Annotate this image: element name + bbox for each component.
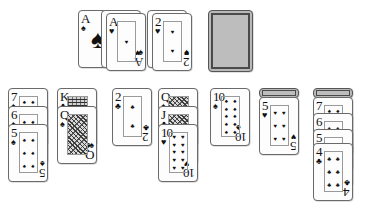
card-index-top-left: 5♥ bbox=[262, 99, 268, 120]
card-index-bottom-right: 2♣ bbox=[143, 123, 149, 144]
tableau-column-1-card-3[interactable]: 5♠5♠♠♠♠♠♠♠ bbox=[8, 124, 48, 182]
card-pip: ♠ bbox=[225, 129, 228, 135]
card-pip: ♥ bbox=[172, 142, 176, 148]
card-pip: ♥ bbox=[273, 123, 277, 129]
card-index-top-left: 2♣ bbox=[115, 90, 121, 111]
card-back-pattern bbox=[211, 13, 250, 69]
card-pip-field: ♥ bbox=[117, 21, 136, 62]
card-pip: ♥ bbox=[282, 123, 286, 129]
card-index-bottom-right: 5♥ bbox=[291, 132, 297, 153]
card-pip: ♣ bbox=[327, 169, 331, 175]
card-pip: ♣ bbox=[336, 182, 340, 188]
card-pip: ♥ bbox=[181, 134, 185, 140]
card-pip: ♥ bbox=[181, 165, 185, 171]
tableau-column-5-card-1[interactable]: 10♠10♠♠♠♠♠♠♠♠♠♠♠ bbox=[210, 88, 250, 146]
tableau-column-4-card-3[interactable]: 10♥10♥♥♥♥♥♥♥♥♥♥♥ bbox=[158, 124, 198, 182]
card-pip: ♠ bbox=[225, 113, 228, 119]
card-pip: ♣ bbox=[336, 156, 340, 162]
card-index-bottom-right: 5♠ bbox=[40, 159, 46, 180]
stock-pile[interactable] bbox=[208, 10, 253, 72]
card-pip-field: ♥♥♥♥♥♥♥♥♥♥ bbox=[169, 132, 188, 173]
card-pip: ♠ bbox=[225, 98, 228, 104]
card-pip-field: ♥♥♥♥♥♥ bbox=[270, 105, 289, 146]
card-pip: ♥ bbox=[125, 39, 129, 45]
card-pip: ♥ bbox=[181, 157, 185, 163]
card-pip: ♥ bbox=[282, 110, 286, 116]
tableau-column-7-card-5[interactable]: 4♣4♣♣♣♣♣♣♣ bbox=[313, 143, 353, 201]
card-pip: ♠ bbox=[233, 106, 236, 112]
court-card-art bbox=[67, 114, 88, 155]
foundation-pile-2-top-card[interactable]: A♥A♥♥♠ bbox=[106, 13, 146, 71]
card-pip-field: ♣♣♣♣♣♣ bbox=[324, 151, 343, 192]
card-pip: ♣ bbox=[131, 104, 135, 110]
card-pip: ♠ bbox=[233, 121, 236, 127]
card-overlap-suit-pip: ♠ bbox=[138, 47, 143, 57]
tableau-column-2-card-2[interactable]: Q♠Q♠♠ bbox=[57, 106, 97, 164]
card-pip-field: ♣♣ bbox=[123, 96, 142, 137]
card-pip: ♠ bbox=[31, 137, 34, 143]
card-index-top-left: 4♣ bbox=[316, 145, 322, 166]
card-suit-pip: ♠ bbox=[89, 140, 94, 150]
card-pip: ♠ bbox=[233, 98, 236, 104]
card-pip: ♥ bbox=[282, 136, 286, 142]
card-pip: ♣ bbox=[336, 169, 340, 175]
card-index-top-left: 5♠ bbox=[11, 126, 17, 147]
card-pip: ♠ bbox=[225, 106, 228, 112]
card-pip: ♥ bbox=[181, 142, 185, 148]
card-pip: ♠ bbox=[31, 150, 34, 156]
card-pip: ♥ bbox=[171, 48, 175, 54]
card-back-pattern bbox=[316, 90, 350, 96]
card-index-top-left: 2♥ bbox=[155, 15, 161, 36]
card-pip: ♥ bbox=[172, 134, 176, 140]
solitaire-board: A♠A♠♠A♥A♥♥♠2♥2♥♥♥♠7♠7♠♠♠♠♠♠♠♠♠6♠6♠♠♠♠♠♠♠… bbox=[0, 0, 376, 215]
card-pip: ♠ bbox=[233, 129, 236, 135]
card-pip: ♥ bbox=[172, 157, 176, 163]
card-pip: ♣ bbox=[327, 182, 331, 188]
tableau-column-3-card-1[interactable]: 2♣2♣♣♣ bbox=[112, 88, 152, 146]
card-back-pattern bbox=[262, 90, 296, 96]
card-overlap-suit-pip: ♠ bbox=[184, 47, 189, 57]
card-pip: ♠ bbox=[31, 99, 34, 105]
card-pip-field: ♠♠♠♠♠♠♠♠♠♠ bbox=[221, 96, 240, 137]
card-pip: ♥ bbox=[172, 149, 176, 155]
card-pip: ♣ bbox=[327, 156, 331, 162]
card-pip-field: ♠♠♠♠♠♠ bbox=[19, 132, 38, 173]
card-pip: ♠ bbox=[225, 121, 228, 127]
card-pip: ♥ bbox=[181, 149, 185, 155]
tableau-column-6-card-2[interactable]: 5♥5♥♥♥♥♥♥♥ bbox=[259, 97, 299, 155]
card-pip: ♠ bbox=[23, 150, 26, 156]
card-pip: ♠ bbox=[23, 137, 26, 143]
card-pip: ♥ bbox=[273, 110, 277, 116]
foundation-pile-3-top-card[interactable]: 2♥2♥♥♥♠ bbox=[152, 13, 192, 71]
card-index-bottom-right: 4♣ bbox=[344, 178, 350, 199]
card-pip: ♥ bbox=[273, 136, 277, 142]
card-pip: ♠ bbox=[23, 163, 26, 169]
card-pip: ♥ bbox=[172, 165, 176, 171]
card-pip-field: ♥♥ bbox=[163, 21, 182, 62]
card-pip: ♥ bbox=[171, 29, 175, 35]
card-pip: ♠ bbox=[31, 163, 34, 169]
card-pip: ♠ bbox=[23, 99, 26, 105]
card-pip: ♣ bbox=[131, 123, 135, 129]
card-pip: ♠ bbox=[233, 113, 236, 119]
